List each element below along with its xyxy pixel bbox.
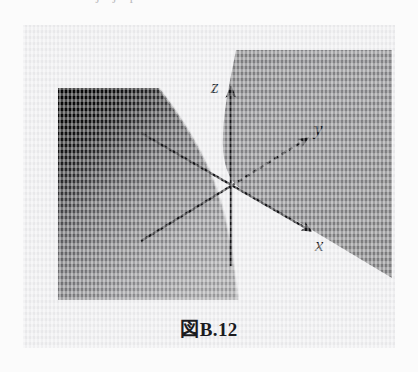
clipped-header-text-value: j j p (96, 0, 141, 4)
left-sheet-surface (58, 88, 238, 300)
right-sheet-surface (223, 50, 392, 278)
surface-plot (23, 25, 395, 348)
x-axis-label: x (315, 234, 323, 256)
clipped-header-text: j j p (0, 0, 418, 14)
figure-caption: 図B.12 (0, 314, 418, 341)
page-root: j j p (0, 0, 418, 372)
y-axis-label: y (314, 118, 322, 140)
figure-panel: z y x (23, 25, 395, 348)
z-axis-label: z (211, 76, 218, 98)
